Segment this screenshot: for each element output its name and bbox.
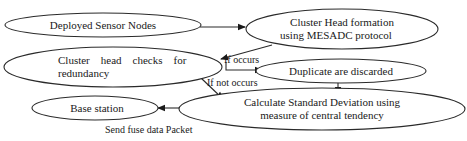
flowchart-diagram: If occurs If not occurs Send fuse data P… xyxy=(0,0,467,141)
node-label-base-station: Base station xyxy=(70,102,124,114)
edge-redundancy-to-discard: If occurs xyxy=(224,54,262,70)
node-calculate-standard-deviation: Calculate Standard Deviation using measu… xyxy=(179,88,465,130)
node-label-std-dev-line1: Calculate Standard Deviation using xyxy=(244,96,401,108)
node-duplicate-discarded: Duplicate are discarded xyxy=(256,59,426,83)
node-label-redundancy-check-line1: Cluster head checks for xyxy=(58,54,187,66)
node-label-std-dev-line2: measure of central tendency xyxy=(260,109,384,121)
node-label-deployed-sensor-nodes: Deployed Sensor Nodes xyxy=(50,19,156,31)
node-cluster-head-checks-redundancy: Cluster head checks for redundancy xyxy=(4,47,222,87)
node-label-duplicate-discarded: Duplicate are discarded xyxy=(289,65,393,77)
node-base-station: Base station xyxy=(32,96,158,120)
node-label-cluster-head-formation-line1: Cluster Head formation xyxy=(290,16,394,28)
node-label-cluster-head-formation-line2: using MESADC protocol xyxy=(280,29,392,41)
edge-label-if-not-occurs: If not occurs xyxy=(207,77,258,88)
edge-label-if-occurs: If occurs xyxy=(224,54,259,65)
node-cluster-head-formation: Cluster Head formation using MESADC prot… xyxy=(246,9,438,49)
node-label-redundancy-check-line2: redundancy xyxy=(58,67,110,79)
node-deployed-sensor-nodes: Deployed Sensor Nodes xyxy=(5,13,201,37)
edge-label-send-fuse-data-packet: Send fuse data Packet xyxy=(105,124,193,135)
